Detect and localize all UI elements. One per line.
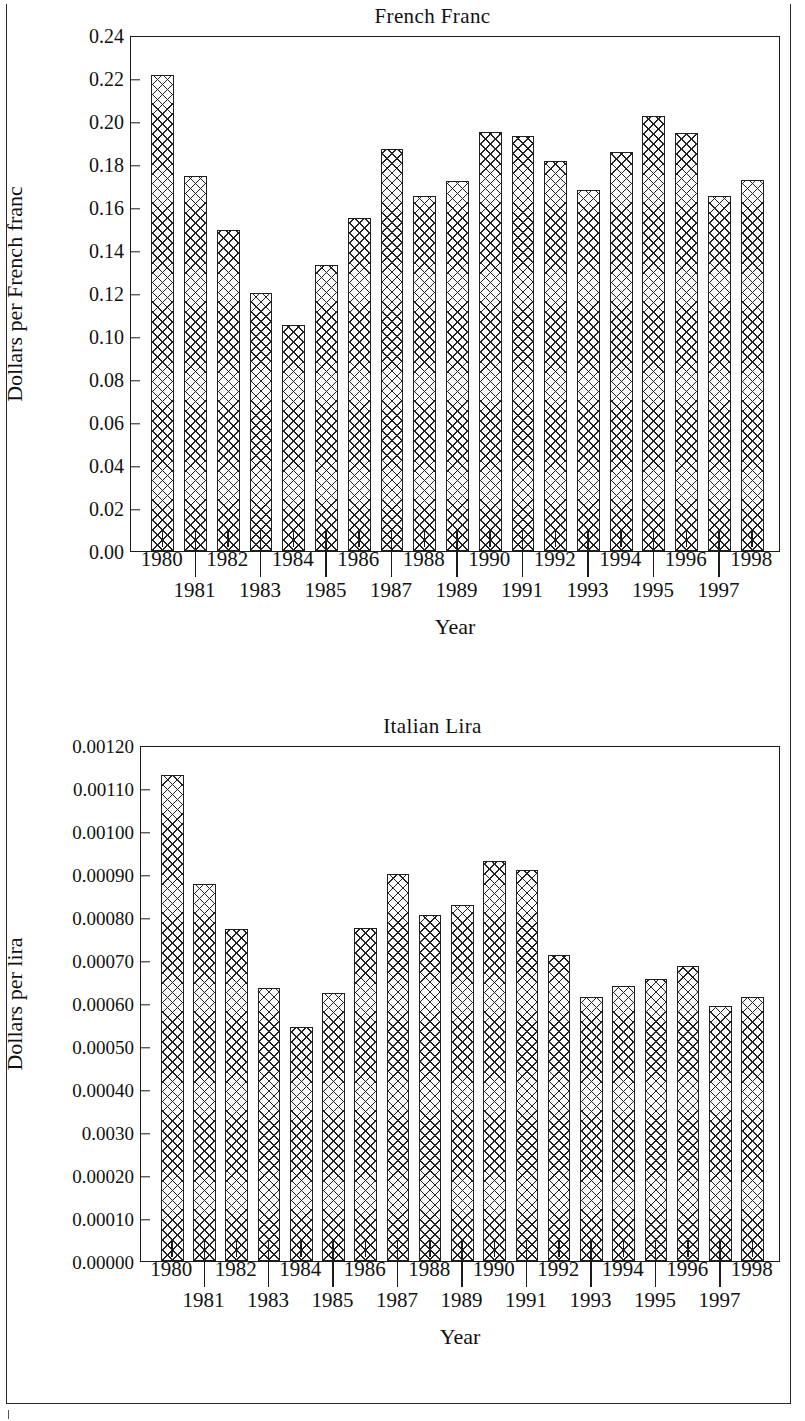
x-tick-label-1983: 1983 [239,580,281,601]
x-tick-label-1982: 1982 [206,549,248,570]
x-label-divider [522,529,523,577]
x-tick-label-1981: 1981 [183,1290,225,1311]
x-tick-label-1988: 1988 [403,549,445,570]
y-tick-mark [131,466,140,467]
bar-1995 [642,116,665,551]
bar-1990 [479,132,502,551]
y-tick-mark [141,1004,150,1005]
x-tick-label-1993: 1993 [566,580,608,601]
x-tick-label-1994: 1994 [602,1259,644,1280]
x-axis-tick-marks-italian-lira [140,1240,780,1258]
bar-1996 [677,966,700,1261]
chart-title-french-franc: French Franc [0,6,805,27]
x-tick-mark [620,530,621,547]
x-tick-label-1994: 1994 [599,549,641,570]
y-tick-label: 0.08 [89,370,124,390]
y-tick-mark [131,122,140,123]
x-label-divider [526,1239,527,1287]
x-tick-label-1990: 1990 [468,549,510,570]
y-tick-mark [141,1133,150,1134]
x-label-divider [204,1239,205,1287]
x-tick-label-1990: 1990 [473,1259,515,1280]
x-label-divider [718,529,719,577]
y-tick-mark [131,380,140,381]
x-tick-mark [293,530,294,547]
y-tick-label: 0.22 [89,69,124,89]
y-tick-mark [141,1176,150,1177]
y-tick-mark [131,423,140,424]
x-tick-label-1995: 1995 [632,580,674,601]
x-tick-mark [236,1240,237,1257]
y-tick-label: 0.00010 [72,1210,134,1229]
bar-series-italian-lira [141,747,779,1261]
bar-1985 [315,265,338,551]
y-tick-label: 0.06 [89,413,124,433]
bar-1988 [419,915,442,1261]
page-border-bottom [6,1403,791,1404]
figure-italian-lira: Italian Lira Dollars per lira 0.001200.0… [0,716,805,1262]
bar-1998 [741,180,764,551]
y-tick-label: 0.00080 [72,909,134,928]
y-tick-label: 0.18 [89,155,124,175]
y-tick-mark [141,918,150,919]
bar-1984 [290,1027,313,1261]
x-axis-labels-even-years-french-franc: 1980198219841986198819901992199419961998 [130,549,780,579]
x-axis-labels-odd-years-french-franc: 198119831985198719891991199319951997 [130,580,780,610]
bar-1991 [512,136,535,551]
bar-1981 [184,176,207,551]
page-corner-tick [8,1410,9,1419]
y-tick-mark [141,1090,150,1091]
bar-1989 [446,181,469,551]
y-tick-mark [141,875,150,876]
x-tick-label-1984: 1984 [279,1259,321,1280]
x-tick-mark [558,1240,559,1257]
bar-1989 [451,905,474,1261]
y-tick-mark [131,337,140,338]
x-tick-label-1995: 1995 [634,1290,676,1311]
x-tick-label-1991: 1991 [501,580,543,601]
bar-1983 [250,293,273,551]
x-tick-mark [555,530,556,547]
x-tick-mark [751,530,752,547]
bar-1997 [709,1006,732,1261]
y-tick-label: 0.00090 [72,866,134,885]
bar-1993 [577,190,600,551]
y-axis-tick-labels-french-franc: 0.240.220.200.180.160.140.120.100.080.06… [26,36,130,552]
y-tick-label: 0.04 [89,456,124,476]
y-tick-label: 0.00 [89,542,124,562]
bar-1994 [610,152,633,551]
bar-1992 [548,955,571,1261]
y-tick-label: 0.24 [89,26,124,46]
x-label-divider [590,1239,591,1287]
x-tick-label-1997: 1997 [697,580,739,601]
plot-frame-french-franc [130,36,780,552]
bar-1998 [741,997,764,1261]
x-tick-mark [365,1240,366,1257]
y-tick-label: 0.00060 [72,995,134,1014]
x-tick-mark [424,530,425,547]
x-axis-labels-odd-years-italian-lira: 198119831985198719891991199319951997 [140,1290,780,1320]
bar-1986 [348,218,371,551]
bar-1980 [151,75,174,551]
y-tick-label: 0.20 [89,112,124,132]
x-tick-label-1985: 1985 [311,1290,353,1311]
x-axis-tick-marks-french-franc [130,530,780,548]
x-label-divider [332,1239,333,1287]
x-tick-label-1996: 1996 [666,1259,708,1280]
bar-1990 [483,861,506,1261]
x-tick-label-1988: 1988 [408,1259,450,1280]
y-tick-mark [141,961,150,962]
y-tick-mark [131,251,140,252]
x-tick-label-1998: 1998 [730,549,772,570]
bar-1983 [258,988,281,1261]
plot-area-french-franc: Dollars per French franc 0.240.220.200.1… [0,36,805,552]
y-tick-mark [141,789,150,790]
x-tick-label-1989: 1989 [435,580,477,601]
y-tick-mark [131,294,140,295]
y-tick-mark [131,165,140,166]
bar-1986 [354,928,377,1261]
x-axis-labels-even-years-italian-lira: 1980198219841986198819901992199419961998 [140,1259,780,1289]
x-label-divider [461,1239,462,1287]
x-label-divider [391,529,392,577]
x-tick-mark [429,1240,430,1257]
